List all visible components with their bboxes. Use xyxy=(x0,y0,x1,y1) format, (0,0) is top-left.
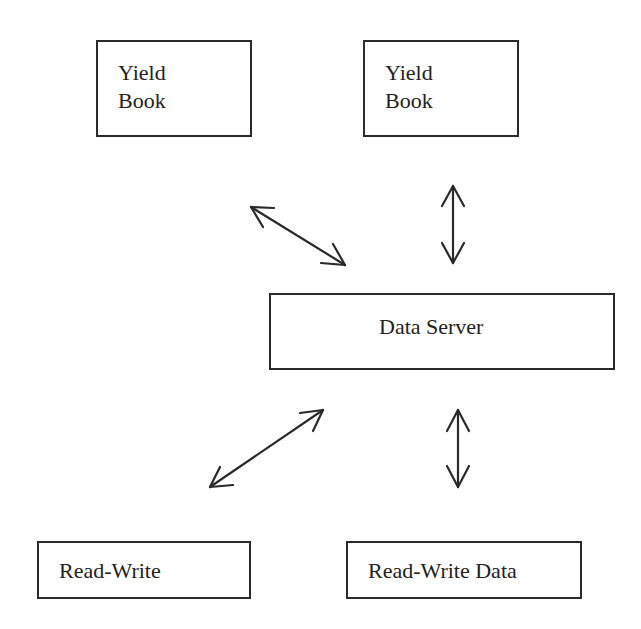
read-write-data-node: Read-Write Data xyxy=(346,541,582,599)
data-server-node: Data Server xyxy=(269,293,615,370)
double-arrow-icon-ds-rwd xyxy=(447,410,469,487)
double-arrow-icon-ds-rw xyxy=(210,410,323,487)
read-write-data-label: Read-Write Data xyxy=(368,556,517,585)
read-write-label: Read-Write xyxy=(59,556,161,585)
data-server-label: Data Server xyxy=(379,312,483,341)
yield-book-1-label-line2: Book xyxy=(118,86,166,115)
double-arrow-icon-yb1-ds xyxy=(251,207,345,265)
yield-book-node-1: Yield Book xyxy=(96,40,252,137)
read-write-node: Read-Write xyxy=(37,541,251,599)
yield-book-node-2: Yield Book xyxy=(363,40,519,137)
yield-book-1-label-line1: Yield xyxy=(118,58,166,87)
yield-book-2-label-line1: Yield xyxy=(385,58,433,87)
double-arrow-icon-yb2-ds xyxy=(442,186,464,263)
yield-book-2-label-line2: Book xyxy=(385,86,433,115)
